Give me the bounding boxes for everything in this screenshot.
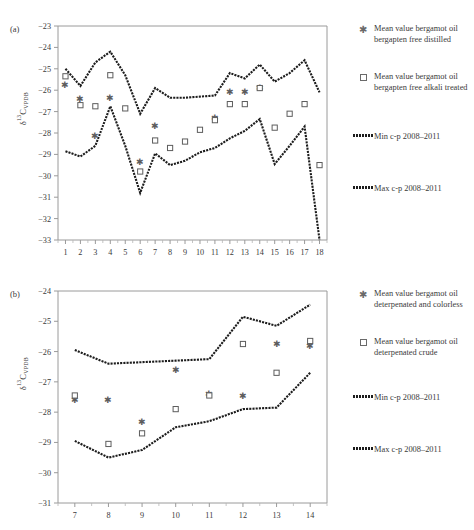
- svg-text:−33: −33: [38, 236, 51, 245]
- svg-text:−30: −30: [38, 172, 51, 181]
- svg-text:✱: ✱: [91, 131, 99, 141]
- svg-text:7: 7: [153, 248, 157, 257]
- svg-text:12: 12: [239, 511, 247, 520]
- y-axis-delta: δ: [18, 386, 28, 390]
- legend-item-min-cp: Min c-p 2008–2011: [352, 393, 474, 404]
- panel-a-plot: −23−24−25−26−27−28−29−30−31−32−331234567…: [30, 0, 390, 265]
- svg-text:−32: −32: [38, 215, 51, 224]
- svg-text:12: 12: [226, 248, 234, 257]
- svg-text:−26: −26: [38, 86, 51, 95]
- svg-text:7: 7: [73, 511, 77, 520]
- svg-text:✱: ✱: [241, 87, 249, 97]
- square-marker-icon: [352, 72, 374, 81]
- svg-text:−25: −25: [38, 317, 51, 326]
- svg-text:✱: ✱: [61, 80, 69, 90]
- svg-text:13: 13: [272, 511, 280, 520]
- svg-text:8: 8: [168, 248, 172, 257]
- svg-text:11: 11: [205, 511, 213, 520]
- legend-item-max-cp: Max c-p 2008–2011: [352, 184, 474, 195]
- svg-text:14: 14: [306, 511, 314, 520]
- legend-label: Mean value bergamot oil bergapten free a…: [374, 72, 474, 93]
- legend-label: Min c-p 2008–2011: [374, 132, 474, 143]
- svg-text:16: 16: [286, 248, 294, 257]
- svg-text:10: 10: [172, 511, 180, 520]
- svg-text:−29: −29: [38, 150, 51, 159]
- svg-text:✱: ✱: [273, 339, 281, 349]
- asterisk-marker-icon: ✱: [352, 289, 374, 299]
- panel-b-y-axis-label: δ13CVPDB: [16, 357, 29, 390]
- svg-text:13: 13: [241, 248, 249, 257]
- svg-text:1: 1: [63, 248, 67, 257]
- svg-text:−29: −29: [38, 438, 51, 447]
- legend-label: Mean value bergamot oil bergapten free d…: [374, 24, 474, 45]
- svg-text:4: 4: [108, 248, 112, 257]
- legend-label: Min c-p 2008–2011: [374, 393, 474, 404]
- legend-item-distilled: ✱ Mean value bergamot oil bergapten free…: [352, 24, 474, 45]
- dashed-line-icon: [352, 132, 374, 137]
- svg-text:9: 9: [140, 511, 144, 520]
- panel-a-y-axis-label: δ13CVPDB: [16, 92, 29, 125]
- svg-text:2: 2: [78, 248, 82, 257]
- svg-text:5: 5: [123, 248, 127, 257]
- svg-text:−30: −30: [38, 469, 51, 478]
- asterisk-marker-icon: ✱: [352, 24, 374, 34]
- svg-text:−31: −31: [38, 193, 51, 202]
- svg-text:−25: −25: [38, 65, 51, 74]
- svg-text:9: 9: [183, 248, 187, 257]
- svg-text:6: 6: [138, 248, 142, 257]
- panel-b-plot: −24−25−26−27−28−29−30−317891011121314✱✱✱…: [30, 265, 390, 530]
- dashed-line-icon: [352, 184, 374, 189]
- svg-text:−24: −24: [38, 43, 51, 52]
- chart-panel-a: (a) δ13CVPDB −23−24−25−26−27−28−29−30−31…: [0, 0, 474, 265]
- y-axis-subscript: VPDB: [23, 357, 29, 374]
- svg-text:17: 17: [300, 248, 308, 257]
- svg-text:✱: ✱: [106, 93, 114, 103]
- svg-text:✱: ✱: [136, 157, 144, 167]
- svg-text:14: 14: [256, 248, 264, 257]
- svg-text:−23: −23: [38, 22, 51, 31]
- y-axis-superscript: 13: [16, 115, 22, 121]
- svg-text:−24: −24: [38, 287, 51, 296]
- svg-text:−28: −28: [38, 129, 51, 138]
- svg-text:−28: −28: [38, 408, 51, 417]
- panel-b-tag: (b): [10, 289, 20, 299]
- svg-text:−26: −26: [38, 348, 51, 357]
- svg-text:18: 18: [315, 248, 323, 257]
- legend-item-deterpenated-colorless: ✱ Mean value bergamot oil deterpenated a…: [352, 289, 474, 310]
- svg-text:−31: −31: [38, 499, 51, 508]
- legend-item-min-cp: Min c-p 2008–2011: [352, 132, 474, 143]
- legend-item-alkali: Mean value bergamot oil bergapten free a…: [352, 72, 474, 93]
- svg-text:−27: −27: [38, 108, 51, 117]
- svg-text:8: 8: [106, 511, 110, 520]
- svg-text:11: 11: [211, 248, 219, 257]
- y-axis-carbon: C: [18, 374, 28, 380]
- y-axis-superscript: 13: [16, 380, 22, 386]
- dashed-line-icon: [352, 393, 374, 398]
- svg-text:✱: ✱: [239, 391, 247, 401]
- svg-text:−27: −27: [38, 378, 51, 387]
- svg-text:✱: ✱: [138, 417, 146, 427]
- svg-text:3: 3: [93, 248, 97, 257]
- y-axis-carbon: C: [18, 109, 28, 115]
- svg-text:15: 15: [271, 248, 279, 257]
- legend-label: Max c-p 2008–2011: [374, 445, 474, 456]
- legend-label: Mean value bergamot oil deterpenated cru…: [374, 337, 474, 358]
- legend-label: Mean value bergamot oil deterpenated and…: [374, 289, 474, 310]
- square-marker-icon: [352, 337, 374, 346]
- legend-item-max-cp: Max c-p 2008–2011: [352, 445, 474, 456]
- dashed-line-icon: [352, 445, 374, 450]
- svg-text:✱: ✱: [226, 87, 234, 97]
- svg-text:✱: ✱: [151, 121, 159, 131]
- svg-text:✱: ✱: [104, 395, 112, 405]
- y-axis-subscript: VPDB: [23, 92, 29, 109]
- svg-text:✱: ✱: [172, 365, 180, 375]
- chart-panel-b: (b) δ13CVPDB −24−25−26−27−28−29−30−31789…: [0, 265, 474, 530]
- y-axis-delta: δ: [18, 121, 28, 125]
- panel-a-tag: (a): [10, 24, 19, 34]
- legend-item-deterpenated-crude: Mean value bergamot oil deterpenated cru…: [352, 337, 474, 358]
- legend-label: Max c-p 2008–2011: [374, 184, 474, 195]
- svg-text:10: 10: [196, 248, 204, 257]
